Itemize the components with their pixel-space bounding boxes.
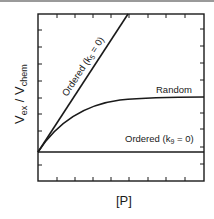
label-random: Random xyxy=(156,84,192,95)
x-axis-label: [P] xyxy=(116,193,132,208)
y-axis-label: Vex / Vchem xyxy=(12,64,29,124)
chart: Ordered (k5 = 0) Random Ordered (k9 = 0)… xyxy=(0,0,214,219)
label-ordered-k5: Ordered (k5 = 0) xyxy=(59,35,106,99)
label-ordered-k9: Ordered (k9 = 0) xyxy=(125,133,194,145)
series-ordered-k5 xyxy=(38,14,128,152)
